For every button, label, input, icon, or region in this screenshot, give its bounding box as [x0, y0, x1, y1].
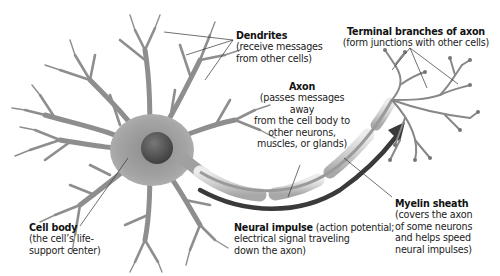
- nucleus: [141, 132, 173, 164]
- axon-desc-4: muscles, or glands): [247, 138, 357, 149]
- myelin-sheath-desc-4: neural impulses): [395, 244, 472, 255]
- cell-body-desc-1: (the cell’s life-: [29, 233, 101, 244]
- axon-title: Axon: [289, 81, 315, 92]
- dendrites-title: Dendrites: [236, 30, 287, 41]
- cell-body-desc-2: support center): [29, 245, 101, 256]
- neural-impulse-suffix: (action potential;: [313, 222, 394, 233]
- myelin-sheath-desc-1: (covers the axon: [395, 209, 472, 220]
- dendrites-desc-1: (receive messages: [236, 41, 323, 52]
- cell-body-title: Cell body: [29, 222, 77, 233]
- axon-desc-2: from the cell body to: [247, 115, 357, 126]
- axon-desc-1: (passes messages away: [247, 92, 357, 115]
- label-myelin-sheath: Myelin sheath (covers the axon of some n…: [395, 198, 472, 255]
- terminal-branches-title: Terminal branches of axon: [347, 26, 485, 37]
- myelin-sheath-title: Myelin sheath: [395, 198, 468, 209]
- terminal-branches-desc: (form junctions with other cells): [330, 37, 500, 48]
- dendrites-desc-2: from other cells): [236, 53, 323, 64]
- terminal-branches: [385, 50, 478, 160]
- neural-impulse-title: Neural impulse: [234, 222, 313, 233]
- label-dendrites: Dendrites (receive messages from other c…: [236, 30, 323, 64]
- myelin-sheath-desc-3: and helps speed: [395, 232, 472, 243]
- label-neural-impulse: Neural impulse (action potential; electr…: [234, 222, 394, 256]
- label-cell-body: Cell body (the cell’s life- support cent…: [29, 222, 101, 256]
- myelin-sheath-desc-2: of some neurons: [395, 221, 472, 232]
- label-terminal-branches: Terminal branches of axon (form junction…: [330, 26, 500, 49]
- neural-impulse-desc-2: down the axon): [234, 245, 394, 256]
- neural-impulse-desc-1: electrical signal traveling: [234, 233, 394, 244]
- label-axon: Axon (passes messages away from the cell…: [247, 81, 357, 149]
- axon-desc-3: other neurons,: [247, 127, 357, 138]
